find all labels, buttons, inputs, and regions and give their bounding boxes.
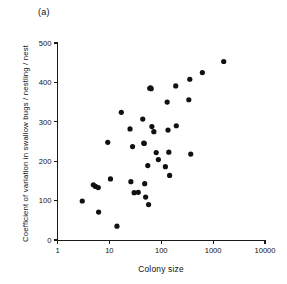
x-tick-label: 10000 [254,246,275,255]
data-point [143,194,148,199]
data-point [167,173,172,178]
data-point [96,209,101,214]
plot-canvas: 0100200300400500 110100100010000 [0,0,287,284]
data-point [188,152,193,157]
data-point [145,163,150,168]
data-point [174,123,179,128]
data-point [200,70,205,75]
y-tick-label: 400 [39,78,52,87]
data-point [142,141,147,146]
y-tick-label: 0 [47,236,51,245]
data-point [163,164,168,169]
y-tick-label: 300 [39,118,52,127]
data-point [80,198,85,203]
data-point [119,110,124,115]
data-point [146,202,151,207]
x-tick-label: 100 [155,246,168,255]
data-point [149,124,154,129]
data-point [105,140,110,145]
data-point [165,127,170,132]
data-point [136,190,141,195]
data-point [128,179,133,184]
data-point [165,100,170,105]
data-point [96,185,101,190]
data-point [108,176,113,181]
x-tick-label: 10 [105,246,113,255]
data-point [151,129,156,134]
y-tick-group: 0100200300400500 [39,39,58,245]
data-point [148,85,153,90]
y-tick-label: 100 [39,196,52,205]
x-tick-label: 1 [55,246,59,255]
y-tick-label: 500 [39,39,52,48]
y-tick-label: 200 [39,157,52,166]
data-point [154,150,159,155]
data-point [187,77,192,82]
x-axis: 110100100010000 [55,240,275,255]
data-point [166,150,171,155]
data-point [221,59,226,64]
data-point [127,126,132,131]
y-axis: 0100200300400500 [39,39,58,245]
data-point [140,116,145,121]
x-tick-label: 1000 [205,246,222,255]
y-axis-label: Coefficient of variation in swallow bugs… [21,33,30,255]
data-point [186,97,191,102]
data-points [80,59,227,229]
data-point [130,144,135,149]
data-point [173,83,178,88]
data-point [142,181,147,186]
x-tick-group: 110100100010000 [55,240,275,255]
data-point [114,224,119,229]
scatter-plot-figure: (a) 0100200300400500 110100100010000 Coe… [0,0,287,284]
x-axis-label: Colony size [57,264,265,274]
data-point [156,157,161,162]
